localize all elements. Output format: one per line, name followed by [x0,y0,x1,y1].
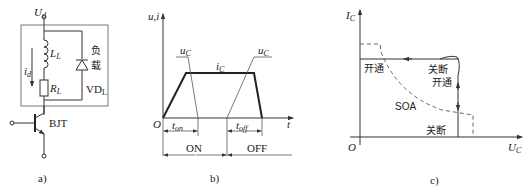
origin-label-c: O [348,141,356,153]
panel-b-waveforms [163,14,293,156]
on-label: ON [186,142,202,154]
soa-boundary [360,44,473,137]
load-label-1: 负 [91,44,101,56]
bjt-transistor-icon [10,106,46,158]
turn-off-label-upper: 关断 [428,63,448,75]
origin-label: O [153,118,161,130]
uc-axis-label: UC [508,141,522,155]
inductor-icon [44,40,48,68]
turn-on-label-left: 开通 [364,63,384,74]
transistor-label: BJT [49,117,68,129]
caption-c: c) [430,174,439,187]
t-on-label: ton [172,119,183,133]
diode-label: VDL [86,83,107,97]
turn-on-label-right: 开通 [432,77,452,88]
ic-axis-label: IC [345,9,356,23]
y-axis-label: u,i [148,10,159,22]
collector-current-waveform [163,73,262,118]
t-off-label: toff [236,119,249,133]
inductor-label: LL [49,47,61,61]
load-label-2: 载 [91,60,101,71]
caption-b: b) [210,172,220,185]
resistor-icon [40,80,48,96]
turn-off-label-lower: 关断 [426,124,446,136]
caption-a: a) [38,172,47,185]
x-axis-label: t [287,118,291,130]
collector-voltage-turn-on [188,57,198,118]
voltage-uc-label-on: uC [180,44,192,58]
diode-icon [76,60,88,70]
collector-voltage-turn-off [227,57,254,118]
figure-canvas: Ud LL RL id 负 载 VDL BJT a) u,i t [0,0,526,195]
supply-voltage-label: Ud [34,6,47,20]
current-label: id [24,65,32,79]
soa-label: SOA [395,101,416,112]
current-ic-label: iC [216,60,225,74]
off-label: OFF [247,142,267,154]
resistor-label: RL [49,82,62,96]
voltage-uc-label-off: uC [258,44,270,58]
